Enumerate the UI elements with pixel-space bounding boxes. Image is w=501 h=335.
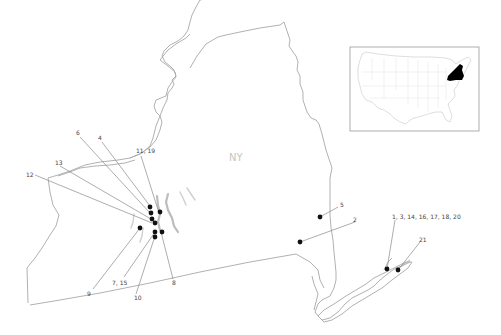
site-marker[interactable] — [153, 235, 158, 240]
site-label: 4 — [98, 134, 102, 141]
site-label: 9 — [87, 290, 91, 297]
site-label: 10 — [134, 294, 142, 301]
site-marker[interactable] — [298, 240, 303, 245]
site-marker[interactable] — [138, 226, 143, 231]
site-labels: 4 6 11, 19 13 12 9 7, 15 10 8 5 2 1, 3, … — [26, 129, 461, 301]
site-marker[interactable] — [385, 267, 390, 272]
site-marker[interactable] — [148, 205, 153, 210]
leader-lines — [35, 137, 420, 294]
site-label: 5 — [340, 201, 344, 208]
site-label: 12 — [26, 171, 34, 178]
site-marker[interactable] — [149, 211, 154, 216]
ny-pa-border — [30, 254, 324, 305]
site-marker[interactable] — [153, 221, 158, 226]
site-label: 1, 3, 14, 16, 17, 18, 20 — [392, 213, 461, 220]
site-label: 6 — [76, 129, 80, 136]
site-marker[interactable] — [318, 215, 323, 220]
site-marker[interactable] — [160, 230, 165, 235]
ny-sites-map: NY 4 6 11, 19 13 12 — [0, 0, 501, 335]
ny-north-border — [190, 22, 336, 288]
site-marker[interactable] — [396, 268, 401, 273]
site-label: 8 — [172, 279, 176, 286]
state-label: NY — [229, 152, 243, 163]
ny-west-top — [130, 60, 176, 158]
site-label: 11, 19 — [136, 147, 155, 154]
site-marker[interactable] — [158, 210, 163, 215]
site-markers — [138, 205, 401, 273]
us-locator-inset — [350, 47, 479, 131]
finger-lake — [180, 192, 186, 205]
site-label: 21 — [419, 236, 427, 243]
site-marker[interactable] — [150, 217, 155, 222]
finger-lake — [166, 194, 178, 232]
finger-lake — [131, 214, 134, 228]
site-label: 2 — [353, 216, 357, 223]
site-label: 13 — [55, 159, 63, 166]
site-marker[interactable] — [153, 230, 158, 235]
ny-northwest-shore — [160, 34, 190, 60]
hudson-river — [312, 276, 318, 310]
finger-lake — [187, 188, 195, 200]
site-label: 7, 15 — [112, 279, 127, 286]
